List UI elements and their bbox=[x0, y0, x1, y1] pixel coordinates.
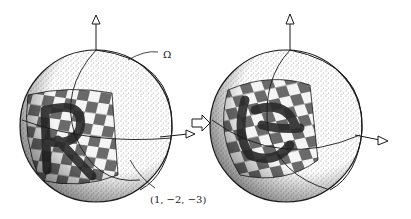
transition-arrow-icon bbox=[192, 115, 210, 131]
right-side-arrowhead-icon bbox=[378, 136, 388, 145]
figure-canvas: Ω (1, −2, −3) bbox=[0, 0, 411, 219]
right-sphere-shade bbox=[210, 50, 362, 202]
left-sphere: Ω (1, −2, −3) bbox=[20, 15, 206, 205]
omega-label: Ω bbox=[163, 49, 171, 60]
rotation-axis-label: (1, −2, −3) bbox=[150, 194, 206, 205]
left-top-arrowhead-icon bbox=[92, 15, 100, 24]
right-sphere bbox=[210, 14, 388, 202]
left-sphere-shade bbox=[20, 50, 172, 202]
left-side-arrowhead-icon bbox=[186, 130, 195, 138]
right-top-arrowhead-icon bbox=[286, 14, 294, 24]
